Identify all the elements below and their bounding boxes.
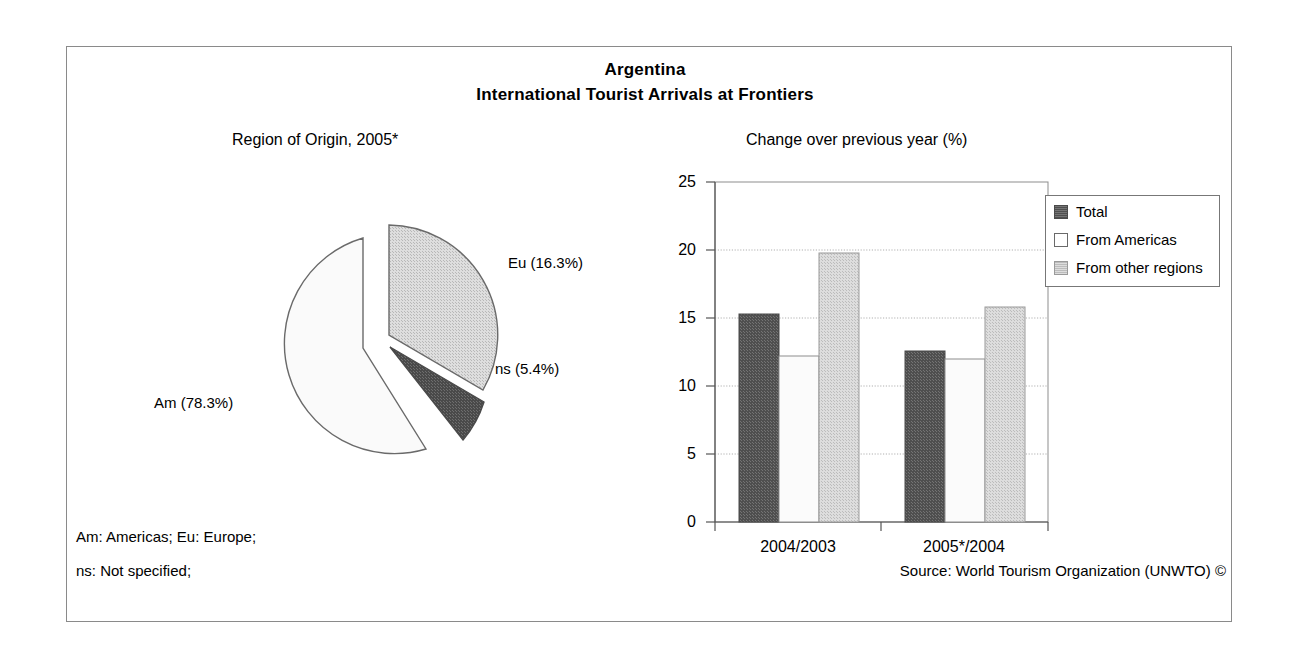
pie-chart: Eu (16.3%) ns (5.4%) Am (78.3%) [150, 180, 620, 510]
legend-swatch-from-other-regions [1054, 261, 1068, 275]
chart-page: Argentina International Tourist Arrivals… [0, 0, 1290, 658]
legend-label-from-other-regions: From other regions [1076, 259, 1203, 276]
y-tick-25: 25 [662, 173, 696, 191]
source-credit: Source: World Tourism Organization (UNWT… [0, 562, 1226, 579]
pie-label-ns: ns (5.4%) [495, 360, 559, 377]
pie-chart-subtitle: Region of Origin, 2005* [232, 131, 398, 149]
bar-other-2004-2003 [819, 253, 859, 522]
bar-chart-legend: Total From Americas From other regions [1045, 195, 1220, 287]
bar-chart-subtitle: Change over previous year (%) [746, 131, 967, 149]
pie-label-eu: Eu (16.3%) [508, 254, 583, 271]
x-axis [715, 522, 1048, 531]
y-tick-20: 20 [662, 241, 696, 259]
legend-label-total: Total [1076, 203, 1108, 220]
bar-other-2005-2004 [985, 307, 1025, 522]
legend-label-from-americas: From Americas [1076, 231, 1177, 248]
legend-item-from-other-regions[interactable]: From other regions [1054, 259, 1211, 276]
pie-label-am: Am (78.3%) [154, 394, 233, 411]
y-tick-10: 10 [662, 377, 696, 395]
y-axis [706, 182, 715, 522]
page-title: Argentina [0, 60, 1290, 80]
y-tick-15: 15 [662, 309, 696, 327]
pie-chart-svg [150, 180, 620, 510]
bar-chart-svg [660, 170, 1080, 540]
page-subtitle: International Tourist Arrivals at Fronti… [0, 85, 1290, 105]
legend-item-from-americas[interactable]: From Americas [1054, 231, 1211, 248]
y-tick-5: 5 [662, 445, 696, 463]
legend-item-total[interactable]: Total [1054, 203, 1211, 220]
bar-chart: 25 20 15 10 5 0 2004/2003 2005*/2004 Tot… [660, 170, 1080, 540]
y-tick-0: 0 [662, 513, 696, 531]
legend-swatch-total [1054, 205, 1068, 219]
footnote-line-1: Am: Americas; Eu: Europe; [76, 528, 256, 545]
x-tick-2005-2004: 2005*/2004 [904, 538, 1024, 556]
x-tick-2004-2003: 2004/2003 [738, 538, 858, 556]
legend-swatch-from-americas [1054, 233, 1068, 247]
bar-total-2005-2004 [905, 351, 945, 522]
bar-americas-2004-2003 [779, 356, 819, 522]
bar-total-2004-2003 [739, 314, 779, 522]
bar-americas-2005-2004 [945, 359, 985, 522]
